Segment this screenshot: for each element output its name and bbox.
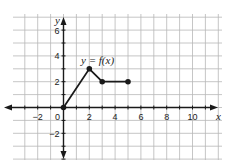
y-tick-label: 6 — [54, 26, 59, 36]
y-tick-label: −2 — [49, 129, 59, 139]
x-tick-label: 8 — [164, 112, 169, 122]
axes — [4, 17, 218, 159]
function-line — [64, 69, 129, 108]
x-tick-label: 4 — [113, 112, 118, 122]
x-axis-left-arrow-icon — [4, 105, 12, 111]
data-point-marker — [61, 105, 67, 111]
data-point-marker — [99, 79, 105, 85]
x-tick-label: 0 — [55, 112, 60, 122]
y-axis-up-arrow-icon — [61, 17, 67, 25]
x-tick-label: 6 — [138, 112, 143, 122]
x-axis-label: x — [215, 110, 221, 122]
x-tick-label: −2 — [33, 112, 43, 122]
x-tick-label: 10 — [187, 112, 197, 122]
y-axis-label: y — [54, 14, 60, 26]
y-tick-label: 4 — [54, 51, 59, 61]
data-point-marker — [87, 66, 93, 72]
data-point-marker — [125, 79, 131, 85]
x-tick-label: 2 — [87, 112, 92, 122]
y-axis-down-arrow-icon — [61, 151, 67, 159]
function-label: y = f(x) — [80, 54, 114, 67]
function-plot — [61, 66, 131, 110]
function-graph: −20246810−2246 y = f(x) x y — [0, 0, 226, 163]
grid-lines — [13, 14, 222, 160]
y-tick-label: 2 — [54, 77, 59, 87]
